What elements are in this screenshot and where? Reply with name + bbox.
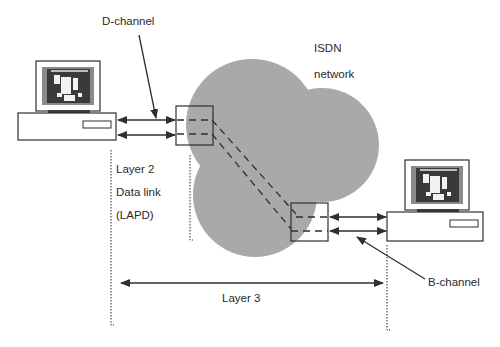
right-computer-icon	[387, 160, 483, 241]
b-channel-label: B-channel	[428, 276, 480, 288]
network-label: network	[314, 68, 354, 80]
left-computer-icon	[18, 61, 116, 140]
isdn-label: ISDN	[314, 42, 341, 54]
d-channel-pointer	[139, 35, 156, 118]
isdn-cloud	[186, 59, 379, 257]
b-channel-pointer	[357, 237, 425, 279]
left-d-b-arrows	[118, 120, 175, 135]
right-d-b-arrows	[330, 217, 386, 231]
layer2-label: Layer 2	[116, 163, 154, 175]
data-link-label: Data link	[116, 186, 161, 198]
lapd-label: (LAPD)	[116, 209, 154, 221]
d-channel-label: D-channel	[102, 15, 154, 27]
layer3-label: Layer 3	[222, 292, 260, 304]
